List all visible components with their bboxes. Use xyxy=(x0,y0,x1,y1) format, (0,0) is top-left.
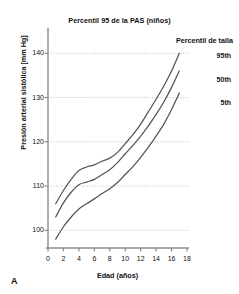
series-line-50th xyxy=(56,71,180,217)
plot-canvas xyxy=(0,0,239,294)
chart-figure: Percentil 95 de la PAS (niños) Percentil… xyxy=(0,0,239,294)
series-line-5th xyxy=(56,93,180,239)
